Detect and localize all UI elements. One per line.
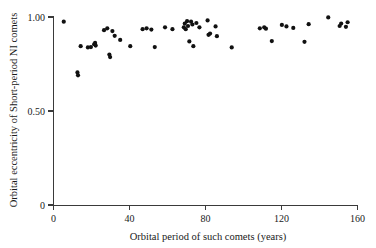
data-point [153, 45, 157, 49]
data-point [270, 39, 274, 43]
data-point [291, 26, 295, 30]
data-point [213, 24, 217, 28]
data-point [302, 40, 306, 44]
data-point [194, 21, 198, 25]
data-point [230, 45, 234, 49]
x-tick-label-5: 160 [350, 213, 365, 224]
x-tick-label-3: 80 [201, 213, 211, 224]
x-tick-label-2: 40 [125, 213, 135, 224]
data-point [94, 43, 98, 47]
data-point [163, 25, 167, 29]
scatter-chart-figure: 1.00 0.50 0 0 40 80 120 160 Orbital peri… [0, 0, 376, 248]
data-point [186, 24, 190, 28]
data-point [170, 27, 174, 31]
y-tick-label-3: 0 [40, 200, 45, 211]
data-point [79, 44, 83, 48]
data-point [264, 27, 268, 31]
data-point [339, 21, 343, 25]
data-point [197, 25, 201, 29]
data-point [118, 38, 122, 42]
data-point [105, 26, 109, 30]
y-axis-title: Orbital eccentricity of Short-period NI … [8, 13, 19, 207]
data-point [346, 20, 350, 24]
data-point [307, 22, 311, 26]
data-point [145, 26, 149, 30]
data-point [108, 55, 112, 59]
x-tick-label-1: 0 [51, 213, 56, 224]
data-point [208, 31, 212, 35]
data-point [62, 20, 66, 24]
data-point [141, 27, 145, 31]
data-point [185, 19, 189, 23]
data-point [149, 28, 153, 32]
x-axis-title: Orbital period of such comets (years) [130, 231, 287, 243]
x-tick-label-4: 120 [274, 213, 289, 224]
data-point [110, 29, 114, 33]
data-point [215, 34, 219, 38]
data-point [187, 39, 191, 43]
data-point [76, 73, 80, 77]
y-tick-label-2: 0.50 [28, 106, 46, 117]
data-point [326, 15, 330, 19]
y-tick-label-1: 1.00 [28, 12, 46, 23]
data-point [284, 24, 288, 28]
data-point [344, 25, 348, 29]
data-point [205, 18, 209, 22]
data-point [191, 44, 195, 48]
data-points-layer [62, 15, 350, 77]
chart-canvas: 1.00 0.50 0 0 40 80 120 160 Orbital peri… [0, 0, 376, 248]
data-point [280, 23, 284, 27]
data-point [258, 26, 262, 30]
data-point [89, 45, 93, 49]
data-point [128, 44, 132, 48]
data-point [190, 22, 194, 26]
data-point [113, 34, 117, 38]
